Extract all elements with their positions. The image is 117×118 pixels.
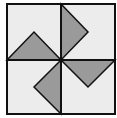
center-point bbox=[59, 58, 63, 62]
pinwheel-diagram bbox=[0, 0, 117, 118]
